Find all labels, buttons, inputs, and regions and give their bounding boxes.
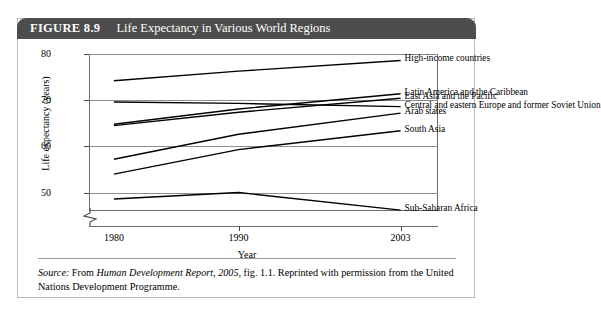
figure-title: Life Expectancy in Various World Regions bbox=[116, 21, 330, 36]
x-tick-mark bbox=[401, 226, 402, 231]
x-tick-label: 1990 bbox=[214, 232, 264, 243]
source-text-before: From bbox=[69, 267, 96, 278]
series-lines bbox=[89, 54, 438, 211]
chart-plot-area: Life expectancy (years) 50607080 1980199… bbox=[18, 40, 476, 252]
series-line bbox=[114, 61, 401, 81]
x-tick-label: 1980 bbox=[89, 232, 139, 243]
series-label: South Asia bbox=[405, 125, 446, 135]
y-tick-label: 80 bbox=[25, 48, 51, 59]
source-lead: Source: bbox=[38, 267, 69, 278]
source-divider bbox=[38, 258, 456, 259]
series-label: Sub-Saharan Africa bbox=[405, 204, 478, 214]
series-label: Arab states bbox=[405, 107, 447, 117]
figure-title-bar: FIGURE 8.9 Life Expectancy in Various Wo… bbox=[17, 18, 476, 39]
y-tick-label: 50 bbox=[25, 187, 51, 198]
figure-number-label: FIGURE 8.9 bbox=[30, 21, 100, 36]
source-note: Source: From Human Development Report, 2… bbox=[38, 266, 458, 294]
y-axis-label: Life expectancy (years) bbox=[40, 54, 51, 194]
x-tick-mark bbox=[239, 226, 240, 231]
figure-card: FIGURE 8.9 Life Expectancy in Various Wo… bbox=[17, 18, 475, 298]
y-tick-label: 70 bbox=[25, 94, 51, 105]
series-line bbox=[114, 193, 401, 211]
source-italic-title: Human Development Report, 2005 bbox=[96, 267, 238, 278]
series-label: High-income countries bbox=[405, 54, 490, 64]
x-axis-line bbox=[89, 226, 438, 227]
series-line bbox=[114, 131, 401, 174]
series-line bbox=[114, 94, 401, 125]
x-tick-label: 2003 bbox=[376, 232, 426, 243]
y-tick-label: 60 bbox=[25, 140, 51, 151]
